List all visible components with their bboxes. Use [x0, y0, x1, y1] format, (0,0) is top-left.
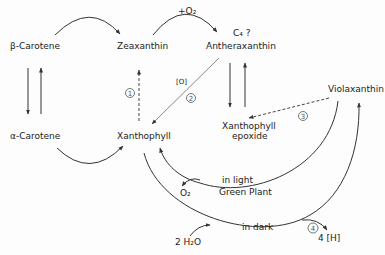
node-xanthophyll: Xanthophyll	[117, 131, 171, 141]
xanthophyll-cycle-diagram: β-Carotene α-Carotene Zeaxanthin Xanthop…	[0, 0, 385, 255]
arrow-zeaxanthin-to-antheraxanthin	[153, 14, 217, 35]
node-violaxanthin: Violaxanthin	[328, 84, 384, 94]
step-3-number: 3	[301, 113, 305, 121]
arrow-beta-to-zeaxanthin	[55, 17, 120, 35]
arrow-alpha-to-xanthophyll	[57, 146, 123, 164]
node-alpha-carotene: α-Carotene	[10, 131, 61, 141]
label-in-dark: in dark	[242, 222, 274, 232]
label-4h: 4 [H]	[318, 233, 340, 243]
node-zeaxanthin: Zeaxanthin	[117, 41, 168, 51]
node-xanthophyll-epoxide-2: epoxide	[232, 131, 268, 141]
label-green-plant: Green Plant	[219, 187, 272, 197]
arrow-h2o-input	[190, 225, 210, 236]
step-1-number: 1	[128, 90, 132, 98]
label-h2o: 2 H₂O	[175, 237, 201, 247]
node-antheraxanthin: Antheraxanthin	[206, 41, 276, 51]
arrow-step-3-dashed	[249, 98, 329, 118]
step-4-number: 4	[311, 225, 316, 233]
node-xanthophyll-epoxide: Xanthophyll	[222, 121, 276, 131]
arrow-step-2-oxidation	[152, 58, 219, 124]
step-2-number: 2	[189, 95, 193, 103]
node-beta-carotene: β-Carotene	[10, 41, 61, 51]
label-plus-o2: +O₂	[178, 6, 197, 16]
label-oxidant: [O]	[176, 78, 187, 86]
node-c4-label: C₄ ?	[233, 28, 251, 38]
label-o2: O₂	[180, 188, 191, 198]
label-in-light: in light	[222, 175, 253, 185]
